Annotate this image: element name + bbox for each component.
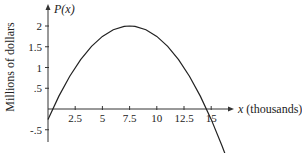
x-tick-label: 7.5 [123, 112, 137, 124]
y-axis-title: Millions of dollars [3, 22, 17, 112]
x-tick-label: 10 [151, 112, 163, 124]
profit-curve [48, 26, 228, 153]
x-tick-label: 15 [206, 112, 218, 124]
x-tick-label: 12.5 [174, 112, 194, 124]
profit-curve-path [48, 26, 228, 153]
x-tick-label: 5 [100, 112, 106, 124]
y-tick-label: .5 [34, 82, 43, 94]
y-tick-label: 1 [37, 62, 43, 74]
y-tick-label: 2 [37, 20, 43, 32]
profit-chart: 2.557.51012.515-.5.511.52P(x)x (thousand… [0, 0, 302, 153]
y-tick-label: 1.5 [28, 41, 42, 53]
x-axis-arrow-icon [228, 107, 234, 112]
y-tick-label: -.5 [30, 124, 42, 136]
x-tick-label: 2.5 [68, 112, 82, 124]
y-axis-arrow-icon [46, 4, 51, 10]
x-axis-title: x (thousands) [237, 102, 302, 116]
function-label: P(x) [53, 2, 75, 16]
